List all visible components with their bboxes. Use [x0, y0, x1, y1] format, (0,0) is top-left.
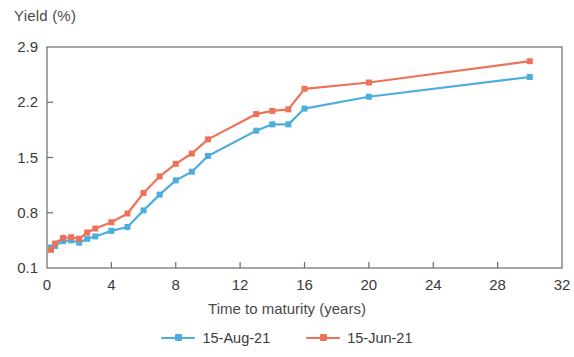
data-point-marker	[173, 161, 179, 167]
data-point-marker	[253, 111, 259, 117]
x-tick-label: 32	[554, 276, 571, 293]
y-tick-label: 2.2	[17, 93, 38, 110]
legend-label-1: 15-Jun-21	[347, 330, 412, 346]
data-point-marker	[68, 234, 74, 240]
chart-legend: 15-Aug-21 15-Jun-21	[0, 330, 574, 346]
data-point-marker	[205, 153, 211, 159]
series-0	[48, 74, 533, 250]
data-point-marker	[527, 58, 533, 64]
x-axis-label: Time to maturity (years)	[0, 300, 574, 317]
data-point-marker	[157, 192, 163, 198]
legend-marker-blue	[161, 332, 195, 344]
chart-figure: Yield (%) 0.10.81.52.22.9048121620242832…	[0, 0, 574, 357]
series-1	[48, 58, 533, 253]
legend-square-red	[320, 334, 327, 341]
data-point-marker	[269, 108, 275, 114]
legend-item-1[interactable]: 15-Jun-21	[306, 330, 412, 346]
data-point-marker	[48, 247, 54, 253]
data-point-marker	[60, 235, 66, 241]
data-point-marker	[157, 173, 163, 179]
data-point-marker	[366, 94, 372, 100]
data-point-marker	[141, 190, 147, 196]
y-tick-label: 0.1	[17, 259, 38, 276]
data-point-marker	[108, 228, 114, 234]
data-point-marker	[84, 236, 90, 242]
data-point-marker	[141, 207, 147, 213]
data-point-marker	[285, 121, 291, 127]
data-point-marker	[189, 169, 195, 175]
data-point-marker	[52, 241, 58, 247]
data-point-marker	[173, 177, 179, 183]
data-point-marker	[285, 106, 291, 112]
x-tick-label: 28	[489, 276, 506, 293]
x-tick-label: 20	[361, 276, 378, 293]
data-point-marker	[269, 121, 275, 127]
legend-marker-red	[306, 332, 340, 344]
y-tick-label: 2.9	[17, 38, 38, 55]
y-tick-label: 1.5	[17, 149, 38, 166]
x-tick-label: 4	[107, 276, 115, 293]
data-point-marker	[92, 226, 98, 232]
x-tick-label: 24	[425, 276, 442, 293]
data-point-marker	[76, 236, 82, 242]
x-tick-label: 12	[232, 276, 249, 293]
x-tick-label: 8	[172, 276, 180, 293]
x-tick-label: 0	[43, 276, 51, 293]
data-point-marker	[366, 80, 372, 86]
data-point-marker	[189, 151, 195, 157]
data-point-marker	[84, 229, 90, 235]
data-point-marker	[527, 74, 533, 80]
legend-item-0[interactable]: 15-Aug-21	[161, 330, 270, 346]
data-point-marker	[302, 86, 308, 92]
data-point-marker	[92, 233, 98, 239]
data-point-marker	[253, 128, 259, 134]
x-tick-label: 16	[296, 276, 313, 293]
data-point-marker	[124, 211, 130, 217]
data-point-marker	[108, 219, 114, 225]
data-point-marker	[302, 106, 308, 112]
legend-label-0: 15-Aug-21	[202, 330, 270, 346]
legend-square-blue	[175, 334, 182, 341]
data-point-marker	[124, 224, 130, 230]
y-tick-label: 0.8	[17, 204, 38, 221]
data-point-marker	[205, 136, 211, 142]
